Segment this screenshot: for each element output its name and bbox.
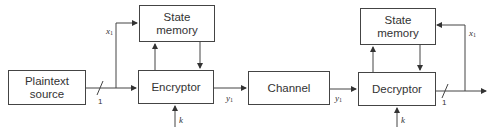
x1-label-decoder: x1 bbox=[469, 28, 476, 38]
encryptor-state-memory-box: State memory bbox=[139, 5, 215, 42]
decryptor-label: Decryptor bbox=[372, 83, 422, 96]
bus-width-label-encoder: 1 bbox=[98, 97, 102, 106]
plaintext-source-label: Plaintext source bbox=[20, 75, 75, 101]
y1-label-decoder: y1 bbox=[335, 93, 342, 103]
x1-label-encoder: x1 bbox=[106, 26, 113, 36]
channel-box: Channel bbox=[248, 71, 330, 105]
encryptor-state-memory-label: State memory bbox=[152, 11, 202, 37]
encryptor-label: Encryptor bbox=[151, 81, 200, 94]
channel-label: Channel bbox=[268, 82, 311, 95]
k-label-decoder: k bbox=[401, 115, 405, 125]
plaintext-source-box: Plaintext source bbox=[8, 70, 86, 105]
decryptor-state-memory-label: State memory bbox=[373, 14, 423, 40]
decryptor-state-memory-box: State memory bbox=[360, 8, 436, 45]
y1-label-encoder: y1 bbox=[226, 93, 233, 103]
decryptor-box: Decryptor bbox=[358, 72, 436, 106]
bus-width-label-decoder: 1 bbox=[442, 98, 446, 107]
encryptor-box: Encryptor bbox=[138, 70, 214, 104]
k-label-encoder: k bbox=[179, 115, 183, 125]
